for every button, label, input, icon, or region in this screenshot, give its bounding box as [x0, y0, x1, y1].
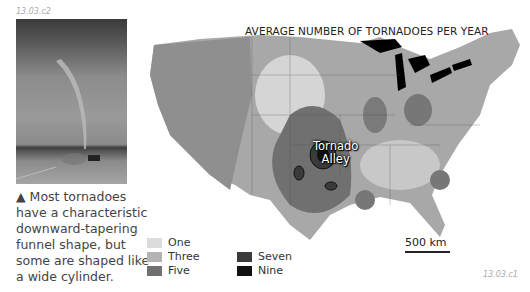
alley-label-line2: Alley: [313, 153, 358, 166]
legend-label: Five: [168, 264, 190, 277]
caption-text: Most tornadoes have a characteristic dow…: [16, 189, 149, 284]
tornado-alley-label: Tornado Alley: [313, 140, 358, 166]
legend-swatch: [147, 266, 162, 276]
legend-swatch: [237, 266, 252, 276]
legend-item-nine: Nine: [237, 264, 283, 277]
legend-swatch: [147, 252, 162, 262]
legend-item-seven: Seven: [237, 250, 292, 263]
legend-item-one: One: [147, 236, 190, 249]
legend-item-five: Five: [147, 264, 190, 277]
legend-label: Nine: [258, 264, 283, 277]
photo-figure-id: 13.03.c2: [16, 7, 51, 16]
legend-label: One: [168, 236, 190, 249]
map-title: AVERAGE NUMBER OF TORNADOES PER YEAR: [245, 25, 489, 37]
photo-caption: ▲ Most tornadoes have a characteristic d…: [16, 189, 156, 285]
legend-swatch: [147, 238, 162, 248]
legend-swatch: [237, 252, 252, 262]
legend-item-three: Three: [147, 250, 200, 263]
legend-label: Seven: [258, 250, 292, 263]
scale-bar: [405, 251, 450, 253]
legend-label: Three: [168, 250, 200, 263]
triangle-marker-icon: ▲: [16, 189, 26, 204]
us-tornado-map: [140, 25, 530, 245]
scale-label: 500 km: [405, 236, 447, 249]
tornado-photo: [16, 19, 127, 184]
map-figure-id: 13.03.c1: [483, 270, 518, 279]
